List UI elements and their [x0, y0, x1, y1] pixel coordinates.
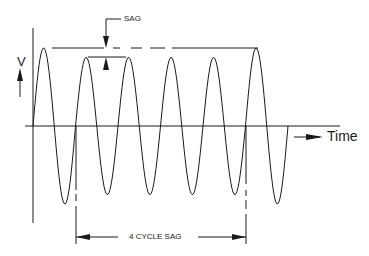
voltage-sag-diagram: V Time SAG 4 CYCLE SAG: [0, 0, 369, 256]
duration-label: 4 CYCLE SAG: [129, 232, 181, 241]
sag-arrow-up-icon: [103, 57, 109, 70]
time-arrow-right-icon: [306, 134, 323, 140]
duration-arrow-left-icon: [76, 234, 90, 240]
duration-arrow-right-icon: [232, 234, 246, 240]
sag-label: SAG: [124, 14, 141, 23]
x-axis-label: Time: [327, 128, 358, 144]
sag-arrow-down-icon: [103, 36, 109, 48]
y-axis-label: V: [17, 54, 26, 69]
sag-leader-line: [106, 19, 121, 36]
v-arrow-up-icon: [17, 68, 23, 81]
diagram-graphics: [0, 0, 369, 256]
